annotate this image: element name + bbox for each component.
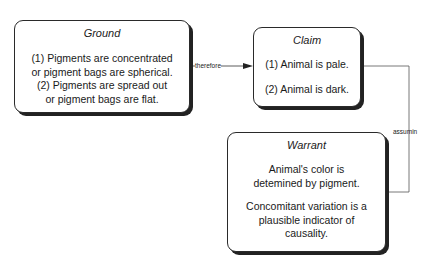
claim-item: (2) Animal is dark. — [254, 83, 360, 97]
claim-title: Claim — [254, 34, 360, 46]
claim-item: (1) Animal is pale. — [254, 58, 360, 72]
warrant-paragraph: Animal's color is detemined by pigment. — [228, 163, 385, 190]
ground-line: or pigment bags are flat. — [15, 93, 189, 107]
claim-node: Claim (1) Animal is pale. (2) Animal is … — [253, 27, 361, 107]
ground-line: (2) Pigments are spread out — [15, 79, 189, 93]
ground-body: (1) Pigments are concentrated or pigment… — [15, 52, 189, 106]
warrant-line: causality. — [285, 227, 328, 239]
warrant-line: detemined by pigment. — [253, 177, 359, 189]
warrant-body: Animal's color is detemined by pigment. … — [228, 163, 385, 241]
warrant-paragraph: Concomitant variation is a plausible ind… — [228, 200, 385, 241]
warrant-line: Animal's color is — [269, 163, 345, 175]
therefore-label: therefore — [195, 62, 221, 70]
warrant-line: plausible indicator of — [259, 214, 355, 226]
ground-title: Ground — [15, 27, 189, 39]
ground-node: Ground (1) Pigments are concentrated or … — [14, 20, 190, 113]
warrant-line: Concomitant variation is a — [246, 200, 367, 212]
ground-line: or pigment bags are spherical. — [15, 66, 189, 80]
warrant-title: Warrant — [228, 139, 385, 151]
claim-body: (1) Animal is pale. (2) Animal is dark. — [254, 58, 360, 96]
warrant-node: Warrant Animal's color is detemined by p… — [227, 132, 386, 252]
ground-line: (1) Pigments are concentrated — [15, 52, 189, 66]
arrowhead-icon — [243, 63, 253, 69]
assuming-label: assumin — [393, 128, 417, 136]
